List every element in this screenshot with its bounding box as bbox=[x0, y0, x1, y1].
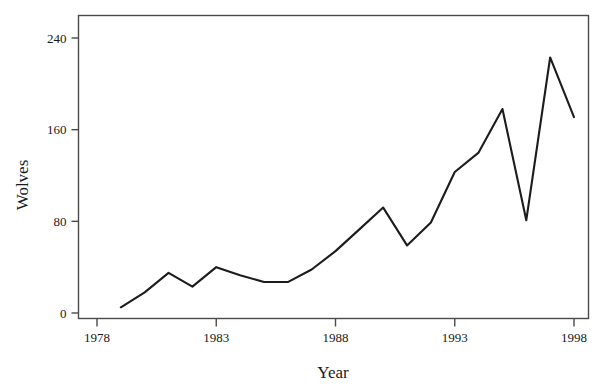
data-series-group bbox=[121, 57, 574, 307]
x-axis-tick-labels: 19781983198819931998 bbox=[84, 330, 587, 345]
x-tick-label: 1983 bbox=[203, 330, 229, 345]
y-tick-label: 160 bbox=[47, 122, 67, 137]
x-axis-title: Year bbox=[317, 363, 349, 382]
y-axis-tick-labels: 080160240 bbox=[47, 31, 67, 321]
wolves-population-chart: 080160240 19781983198819931998 Wolves Ye… bbox=[0, 0, 603, 390]
x-axis-ticks bbox=[97, 319, 574, 327]
x-tick-label: 1998 bbox=[561, 330, 587, 345]
x-tick-label: 1978 bbox=[84, 330, 110, 345]
plot-frame-rect bbox=[79, 16, 589, 319]
y-tick-label: 80 bbox=[54, 214, 67, 229]
y-tick-label: 240 bbox=[47, 31, 67, 46]
y-tick-label: 0 bbox=[60, 306, 67, 321]
y-axis-title: Wolves bbox=[13, 160, 32, 211]
x-tick-label: 1988 bbox=[323, 330, 349, 345]
plot-frame bbox=[79, 16, 589, 319]
chart-canvas: 080160240 19781983198819931998 Wolves Ye… bbox=[0, 0, 603, 390]
y-axis-ticks bbox=[72, 38, 79, 313]
wolves-line-series bbox=[121, 57, 574, 307]
x-tick-label: 1993 bbox=[442, 330, 468, 345]
